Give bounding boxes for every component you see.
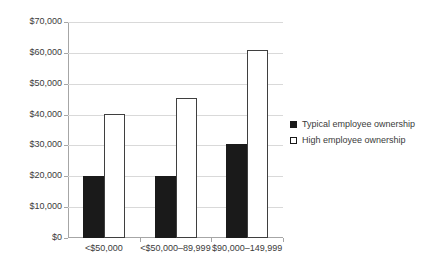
y-axis-tick: [64, 84, 68, 85]
bar-chart: $0$10,000$20,000$30,000$40,000$50,000$60…: [0, 0, 436, 270]
y-axis-line: [68, 22, 69, 238]
category-separator: [211, 238, 212, 242]
category-separator: [283, 238, 284, 242]
legend-item-label: Typical employee ownership: [302, 120, 415, 129]
bar-high: [176, 98, 197, 238]
bar-high: [104, 114, 125, 238]
gridline: [68, 22, 283, 23]
y-axis-tick: [64, 176, 68, 177]
legend-item: Typical employee ownership: [290, 120, 415, 129]
bar-typical: [155, 176, 176, 238]
y-axis-tick: [64, 207, 68, 208]
legend-item-label: High employee ownership: [302, 136, 406, 145]
y-axis-tick: [64, 53, 68, 54]
y-axis-tick-label: $10,000: [0, 202, 62, 211]
y-axis-tick-label: $40,000: [0, 110, 62, 119]
y-axis-tick: [64, 238, 68, 239]
y-axis-tick: [64, 115, 68, 116]
y-axis-tick: [64, 145, 68, 146]
bar-typical: [83, 176, 104, 238]
y-axis-tick-label: $70,000: [0, 17, 62, 26]
y-axis-tick-label: $50,000: [0, 79, 62, 88]
plot-area: [68, 22, 283, 238]
bar-typical: [226, 144, 247, 238]
x-axis-category-label: $90,000–149,999: [201, 244, 293, 253]
hollow-square-marker: [290, 137, 297, 144]
bar-high: [247, 50, 268, 238]
category-separator: [140, 238, 141, 242]
y-axis-tick: [64, 22, 68, 23]
y-axis-tick-label: $60,000: [0, 48, 62, 57]
filled-square-marker: [290, 121, 297, 128]
y-axis-tick-label: $30,000: [0, 140, 62, 149]
y-axis-tick-label: $0: [0, 233, 62, 242]
y-axis-tick-label: $20,000: [0, 171, 62, 180]
legend-item: High employee ownership: [290, 136, 415, 145]
chart-legend: Typical employee ownershipHigh employee …: [290, 120, 415, 152]
